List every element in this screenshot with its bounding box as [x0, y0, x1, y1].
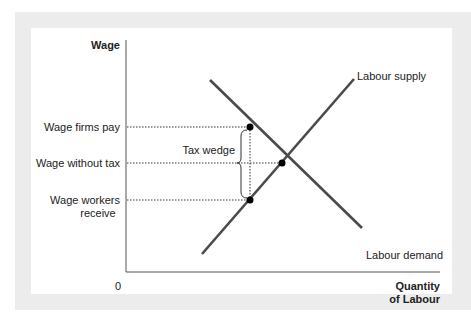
origin-label: 0: [115, 280, 121, 292]
tax-wedge-label: Tax wedge: [182, 144, 235, 156]
x-axis-label-line1: Quantity: [395, 280, 440, 292]
wage-workers-receive-label-line1: Wage workers: [50, 194, 120, 206]
tax-wedge-diagram: Wage 0 Quantity of Labour Wage firms pay…: [0, 0, 471, 324]
wage-without-tax-label: Wage without tax: [36, 157, 120, 169]
equilibrium-point: [279, 160, 286, 167]
wage-workers-receive-label-line2: receive: [80, 207, 115, 219]
labour-demand-label: Labour demand: [366, 249, 443, 261]
wage-firms-pay-label: Wage firms pay: [44, 121, 121, 133]
wage-workers-receive-point: [247, 197, 254, 204]
tax-wedge-brace: [237, 130, 247, 198]
labour-supply-label: Labour supply: [357, 70, 427, 82]
wage-firms-pay-point: [247, 124, 254, 131]
labour-supply-curve: [202, 79, 354, 254]
x-axis-label-line2: of Labour: [389, 293, 440, 305]
y-axis-label: Wage: [91, 39, 120, 51]
